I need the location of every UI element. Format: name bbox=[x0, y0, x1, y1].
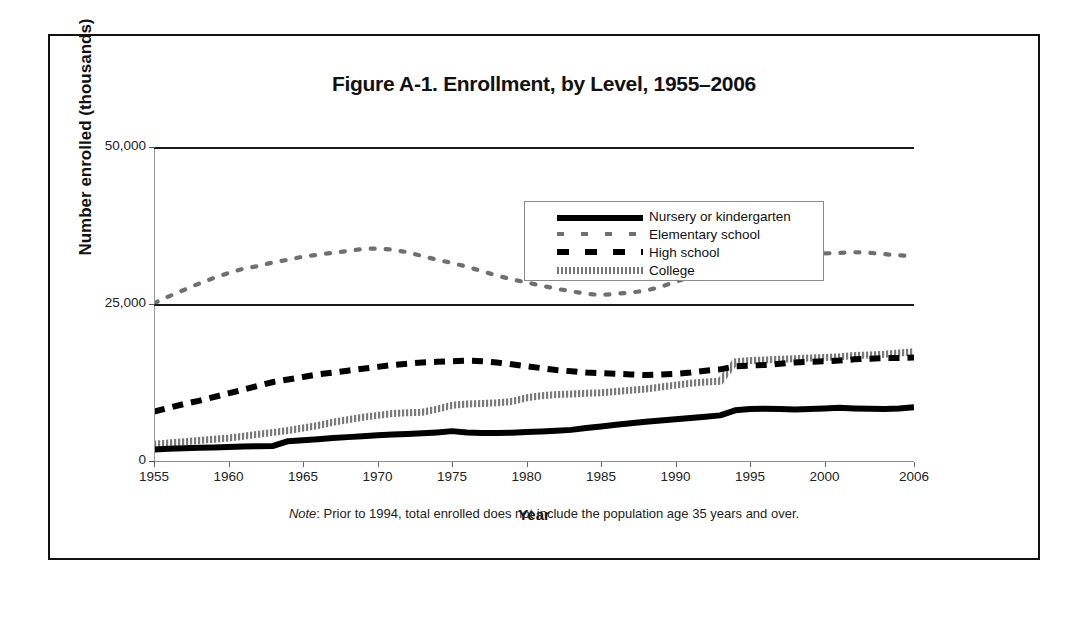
x-tick-label: 2006 bbox=[899, 469, 929, 484]
legend-label-elementary: Elementary school bbox=[649, 227, 760, 242]
legend-label-nursery: Nursery or kindergarten bbox=[649, 209, 791, 224]
legend-item-college: College bbox=[525, 261, 823, 279]
chart-plot-wrapper: Number enrolled (thousands) 50,000 25,00… bbox=[154, 147, 914, 462]
legend-swatch-elementary-icon bbox=[557, 227, 643, 241]
x-tick-mark bbox=[527, 462, 528, 467]
legend-item-high-school: High school bbox=[525, 243, 823, 261]
figure-note-prefix: Note bbox=[289, 506, 316, 521]
x-tick-mark bbox=[914, 462, 915, 467]
x-tick-mark bbox=[303, 462, 304, 467]
legend-swatch-nursery-icon bbox=[557, 215, 643, 221]
chart-legend: Nursery or kindergarten Elementary schoo… bbox=[524, 201, 824, 281]
y-tick-label-25000: 25,000 bbox=[105, 295, 146, 310]
x-tick-mark bbox=[825, 462, 826, 467]
gridline-25000 bbox=[154, 304, 914, 306]
x-tick-label: 1955 bbox=[139, 469, 169, 484]
series-nursery-line bbox=[154, 407, 914, 449]
x-tick-mark bbox=[378, 462, 379, 467]
page-title: Figure A-1. Enrollment, by Level, 1955–2… bbox=[50, 72, 1038, 96]
x-tick-mark bbox=[154, 462, 155, 467]
x-tick-label: 1970 bbox=[362, 469, 392, 484]
figure-note-text: : Prior to 1994, total enrolled does not… bbox=[316, 506, 799, 521]
legend-label-college: College bbox=[649, 263, 695, 278]
x-tick-label: 1990 bbox=[661, 469, 691, 484]
x-tick-mark bbox=[750, 462, 751, 467]
x-tick-label: 1960 bbox=[213, 469, 243, 484]
x-tick-label: 1995 bbox=[735, 469, 765, 484]
series-high-school-line bbox=[154, 357, 914, 411]
y-tick-mark-50000 bbox=[149, 147, 155, 148]
x-tick-mark bbox=[601, 462, 602, 467]
x-tick-label: 2000 bbox=[810, 469, 840, 484]
x-tick-mark bbox=[452, 462, 453, 467]
y-tick-label-50000: 50,000 bbox=[105, 138, 146, 153]
legend-swatch-college-icon bbox=[557, 263, 643, 277]
x-tick-mark bbox=[229, 462, 230, 467]
figure-note: Note: Prior to 1994, total enrolled does… bbox=[50, 506, 1038, 521]
y-tick-label-0: 0 bbox=[138, 452, 146, 467]
x-tick-mark bbox=[676, 462, 677, 467]
x-tick-label: 1985 bbox=[586, 469, 616, 484]
legend-label-high-school: High school bbox=[649, 245, 720, 260]
legend-item-elementary: Elementary school bbox=[525, 225, 823, 243]
figure-frame: Figure A-1. Enrollment, by Level, 1955–2… bbox=[48, 34, 1040, 560]
y-axis-title: Number enrolled (thousands) bbox=[76, 7, 96, 267]
plot-area: Nursery or kindergarten Elementary schoo… bbox=[154, 147, 914, 462]
x-tick-label: 1965 bbox=[288, 469, 318, 484]
legend-swatch-high-school-icon bbox=[557, 245, 643, 259]
y-tick-mark-25000 bbox=[149, 304, 155, 305]
x-tick-label: 1975 bbox=[437, 469, 467, 484]
x-axis-ticks: 1955196019651970197519801985199019952000… bbox=[154, 462, 914, 506]
x-tick-label: 1980 bbox=[512, 469, 542, 484]
legend-item-nursery: Nursery or kindergarten bbox=[525, 207, 823, 225]
gridline-50000 bbox=[154, 147, 914, 149]
